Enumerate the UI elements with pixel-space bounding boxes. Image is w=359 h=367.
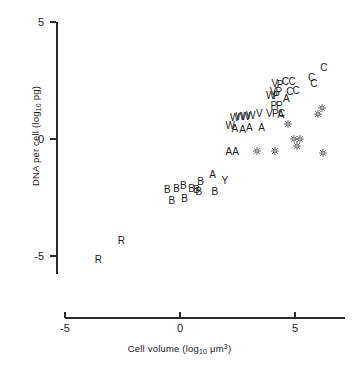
- y-axis-label-sub: 10: [35, 103, 42, 111]
- data-point-A: A: [232, 147, 239, 157]
- y-axis-label-post: pg): [30, 86, 41, 103]
- x-axis-label: Cell volume (log10 μm3): [0, 343, 359, 355]
- data-point-B: B: [196, 187, 203, 197]
- data-point-A: A: [246, 123, 253, 133]
- data-point-A: A: [258, 123, 265, 133]
- data-point-starburst-icon: [270, 147, 279, 156]
- data-point-V: V: [256, 109, 263, 119]
- data-point-R: R: [95, 255, 102, 265]
- x-axis-label-pre: Cell volume (log: [128, 343, 199, 354]
- data-point-starburst-icon: [318, 148, 327, 157]
- x-axis-label-sub: 10: [199, 348, 207, 355]
- data-point-A: A: [209, 170, 216, 180]
- data-point-P: P: [276, 87, 283, 97]
- data-point-starburst-icon: [253, 146, 262, 155]
- data-point-A: A: [225, 147, 232, 157]
- data-point-B: B: [173, 184, 180, 194]
- data-point-A: A: [239, 125, 246, 135]
- x-axis-label-post: ): [228, 343, 231, 354]
- data-point-B: B: [181, 194, 188, 204]
- data-point-starburst-icon: [283, 120, 292, 129]
- data-point-R: R: [118, 236, 125, 246]
- scatter-plot-figure: 50-5 -505 RRBBBBBBBBBBAAAAAAAAAYWWWWWWVV…: [0, 0, 359, 367]
- data-point-C: C: [293, 86, 300, 96]
- data-point-W: W: [246, 111, 255, 121]
- data-point-B: B: [169, 196, 176, 206]
- data-point-starburst-icon: [318, 104, 327, 113]
- y-axis-label-pre: DNA per cell (log: [30, 111, 41, 186]
- data-point-C: C: [320, 63, 327, 73]
- data-point-Y: Y: [222, 176, 229, 186]
- data-point-C: C: [278, 109, 285, 119]
- data-point-C: C: [310, 79, 317, 89]
- data-point-B: B: [212, 187, 219, 197]
- data-point-B: B: [180, 181, 187, 191]
- x-axis-label-mid: μm: [207, 343, 224, 354]
- plot-data-area: RRBBBBBBBBBBAAAAAAAAAYWWWWWWVVVVPPPPPPCC…: [0, 0, 359, 367]
- data-point-B: B: [164, 185, 171, 195]
- data-point-starburst-icon: [292, 142, 301, 151]
- y-axis-label: DNA per cell (log10 pg): [30, 46, 42, 226]
